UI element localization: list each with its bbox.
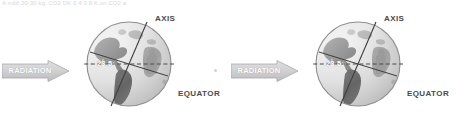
radiation-arrow-right: RADIATION (231, 60, 299, 82)
tilt-angle-label-right: 23.5 (326, 59, 341, 68)
radiation-label-left: RADIATION (6, 66, 54, 75)
axis-label-right: AXIS (384, 14, 404, 23)
radiation-arrow-left: RADIATION (2, 60, 70, 82)
equator-label-left: EQUATOR (178, 89, 220, 98)
tilt-angle-label-left: 23.5 (97, 59, 112, 68)
earth-axial-tilt-diagram-right: RADIATION (229, 0, 457, 128)
axis-label-left: AXIS (155, 14, 175, 23)
radiation-label-right: RADIATION (235, 66, 283, 75)
earth-axial-tilt-diagram-left: RADIATION (0, 0, 228, 128)
equator-label-right: EQUATOR (407, 89, 449, 98)
separator-dot (214, 69, 217, 72)
